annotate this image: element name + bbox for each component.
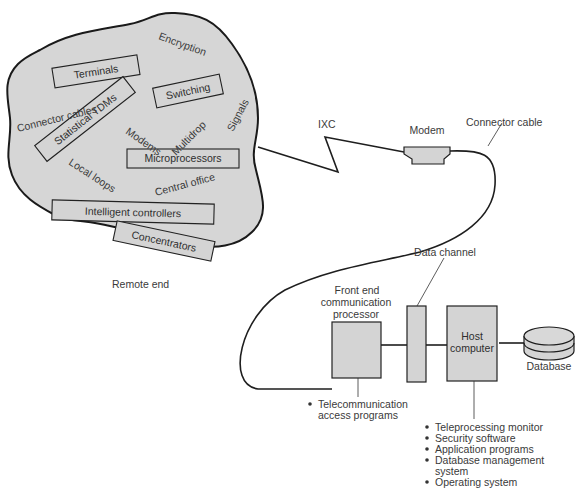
- database-icon: [524, 327, 574, 360]
- data-channel-box: [407, 306, 426, 382]
- bullet: [425, 425, 429, 429]
- remote-end-caption: Remote end: [112, 278, 169, 290]
- host-computer-label-line1: Host: [461, 330, 483, 342]
- data-channel-label: Data channel: [414, 246, 476, 258]
- ixc-label: IXC: [318, 118, 336, 130]
- connector-cable-label: Connector cable: [466, 116, 543, 128]
- front-end-processor-box: [332, 322, 381, 378]
- fep-programs-line2: access programs: [318, 409, 398, 421]
- modem-label: Modem: [409, 124, 444, 136]
- bullet: [308, 402, 312, 406]
- front-end-label-line2: communication: [321, 296, 392, 308]
- database-label: Database: [527, 360, 572, 372]
- front-end-label-line1: Front end: [335, 284, 380, 296]
- ixc-link: [258, 137, 404, 172]
- bullet: [425, 436, 429, 440]
- data-channel-pointer: [417, 258, 444, 306]
- host-software-item5: Operating system: [435, 476, 518, 488]
- host-computer: Host computer: [447, 306, 497, 381]
- intelligent-controllers-box: Intelligent controllers: [52, 200, 214, 224]
- modem-icon: [404, 147, 450, 164]
- bullet: [425, 480, 429, 484]
- intelligent-controllers-label: Intelligent controllers: [85, 205, 182, 220]
- front-end-label-line3: processor: [333, 308, 380, 320]
- network-diagram: Terminals Statistical TDMs Switching Mic…: [0, 0, 585, 491]
- bullet: [425, 458, 429, 462]
- bullet: [425, 447, 429, 451]
- microprocessors-box: Microprocessors: [127, 149, 239, 168]
- host-computer-label-line2: computer: [450, 342, 494, 354]
- front-end-processor: Front end communication processor: [321, 284, 392, 378]
